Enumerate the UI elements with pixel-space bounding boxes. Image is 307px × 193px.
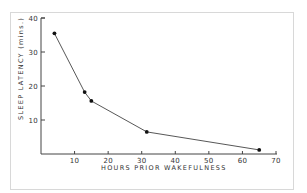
- line-chart: 10203040 10203040506070 SLEEP LATENCY (m…: [0, 0, 307, 193]
- data-point: [83, 90, 87, 94]
- data-point: [257, 148, 261, 152]
- data-point: [53, 31, 57, 35]
- y-tick-label: 40: [28, 15, 38, 23]
- y-tick-label: 20: [28, 83, 38, 91]
- x-axis-label: HOURS PRIOR WAKEFULNESS: [101, 164, 227, 172]
- data-point: [89, 99, 93, 103]
- x-axis-ticks: 10203040506070: [70, 151, 281, 165]
- x-tick-label: 60: [238, 157, 248, 165]
- y-axis-ticks: 10203040: [28, 15, 45, 125]
- y-tick-label: 10: [28, 117, 38, 125]
- y-axis-title: SLEEP LATENCY (mins.): [17, 17, 25, 120]
- data-point: [145, 130, 149, 134]
- y-axis-label: SLEEP LATENCY (mins.): [17, 17, 25, 120]
- y-tick-label: 30: [28, 49, 38, 57]
- x-tick-label: 10: [70, 157, 80, 165]
- x-tick-label: 70: [271, 157, 281, 165]
